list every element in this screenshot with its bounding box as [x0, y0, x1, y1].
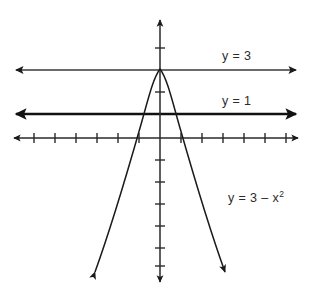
label-line-y-equals-3: y = 3 — [222, 50, 251, 63]
coordinate-plane — [0, 0, 312, 298]
label-parabola-equation: y = 3 – x2 — [228, 192, 284, 205]
parabola-equation-base: y = 3 – x — [228, 191, 279, 205]
parabola-equation-exponent: 2 — [279, 189, 284, 199]
label-line-y-equals-1: y = 1 — [222, 95, 251, 108]
graph-figure: y = 3 y = 1 y = 3 – x2 — [0, 0, 312, 298]
